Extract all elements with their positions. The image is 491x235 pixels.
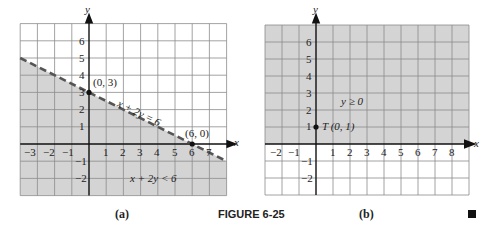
x-tick-1-a: 1 <box>103 146 109 158</box>
y-tick-2-a: 2 <box>79 103 85 115</box>
y-axis-label-a: y <box>85 3 90 15</box>
point-0-3 <box>86 90 91 95</box>
x-tick-7-a: 7 <box>206 146 212 158</box>
y-tick-5-b: 5 <box>306 53 312 65</box>
x-tick-7-b: 7 <box>432 146 438 158</box>
x-tick-3-a: 3 <box>137 146 143 158</box>
y-tick-4-b: 4 <box>306 70 312 82</box>
x-tick-4-a: 4 <box>154 146 160 158</box>
y-tick-1-b: 1 <box>306 120 312 132</box>
x-tick-neg2-b: −2 <box>270 146 282 158</box>
x-tick-3-b: 3 <box>364 146 370 158</box>
panel-label-b: (b) <box>359 207 374 222</box>
y-tick-neg2-a: −2 <box>75 172 87 184</box>
region-label-a: x + 2y < 6 <box>130 172 177 184</box>
y-tick-neg1-a: −1 <box>75 155 87 167</box>
y-tick-1-a: 1 <box>79 120 85 132</box>
point-t-0-1 <box>313 124 318 129</box>
figure-caption: FIGURE 6-25 <box>218 208 285 220</box>
panel-label-a: (a) <box>115 207 129 222</box>
point-label-t: T (0, 1) <box>322 120 355 132</box>
y-tick-6-b: 6 <box>306 36 312 48</box>
x-tick-1-b: 1 <box>330 146 336 158</box>
x-axis-label-b: x <box>474 137 479 149</box>
y-tick-neg2-b: −2 <box>301 172 313 184</box>
x-tick-6-a: 6 <box>189 146 195 158</box>
y-tick-4-a: 4 <box>79 69 85 81</box>
x-tick-2-a: 2 <box>120 146 126 158</box>
end-of-example-mark <box>468 210 476 218</box>
x-tick-8-b: 8 <box>449 146 455 158</box>
point-label-0-3: (0, 3) <box>93 76 117 88</box>
x-tick-neg3-a: −3 <box>24 146 36 158</box>
x-tick-5-b: 5 <box>398 146 404 158</box>
point-label-6-0: (6, 0) <box>185 127 209 139</box>
figure-graphics <box>0 0 491 235</box>
y-tick-2-b: 2 <box>306 104 312 116</box>
y-tick-3-b: 3 <box>306 87 312 99</box>
x-tick-neg1-a: −1 <box>62 146 74 158</box>
x-tick-4-b: 4 <box>381 146 387 158</box>
x-tick-neg1-b: −1 <box>288 146 300 158</box>
region-label-b: y ≥ 0 <box>341 95 363 107</box>
y-tick-6-a: 6 <box>79 35 85 47</box>
x-axis-label-a: x <box>234 136 239 148</box>
panel-b <box>265 18 470 195</box>
x-tick-2-b: 2 <box>347 146 353 158</box>
y-tick-3-a: 3 <box>79 86 85 98</box>
y-tick-5-a: 5 <box>79 52 85 64</box>
x-tick-neg2-a: −2 <box>43 146 55 158</box>
y-tick-neg1-b: −1 <box>301 155 313 167</box>
x-tick-6-b: 6 <box>415 146 421 158</box>
x-tick-5-a: 5 <box>172 146 178 158</box>
y-axis-label-b: y <box>313 3 318 15</box>
